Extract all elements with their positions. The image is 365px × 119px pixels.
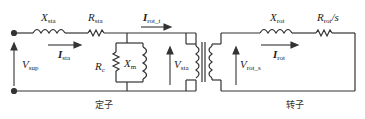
- label-i-rot: Irot: [273, 49, 285, 62]
- label-v-rot-s: Vrot_s: [240, 59, 261, 72]
- rotor-resistance-resistor: [316, 30, 332, 36]
- magnetizing-reactance-inductor: [143, 47, 147, 79]
- irot-t-arrow-icon: [164, 24, 171, 30]
- irot-arrow-icon: [291, 42, 298, 48]
- rotor-reactance-inductor: [260, 30, 292, 34]
- transformer-secondary-coil: [209, 46, 212, 78]
- vsta-arrow-icon: [167, 47, 173, 54]
- label-r-c: Rc: [95, 61, 105, 74]
- ista-arrow-icon: [74, 42, 81, 48]
- label-x-m: Xm: [124, 58, 136, 71]
- section-label-rotor: 转子: [286, 101, 304, 110]
- label-r-sta: Rsta: [88, 12, 103, 25]
- label-v-sta: Vsta: [174, 59, 189, 72]
- label-i-sta: Ista: [58, 49, 70, 62]
- label-v-sup: Vsup: [22, 59, 38, 72]
- transformer-primary-coil: [196, 46, 199, 78]
- stator-resistance-resistor: [88, 30, 104, 36]
- label-x-sta: Xsta: [41, 12, 56, 25]
- core-resistance-resistor: [113, 52, 119, 71]
- label-x-rot: Xrot: [270, 12, 285, 25]
- vsup-arrow-icon: [11, 43, 17, 50]
- vrot-s-arrow-icon: [233, 47, 239, 54]
- label-i-rot-t: Irot_t: [143, 12, 161, 25]
- label-r-rot-s: Rrot/s: [317, 12, 339, 25]
- section-label-stator: 定子: [95, 101, 113, 110]
- stator-reactance-inductor: [33, 30, 65, 34]
